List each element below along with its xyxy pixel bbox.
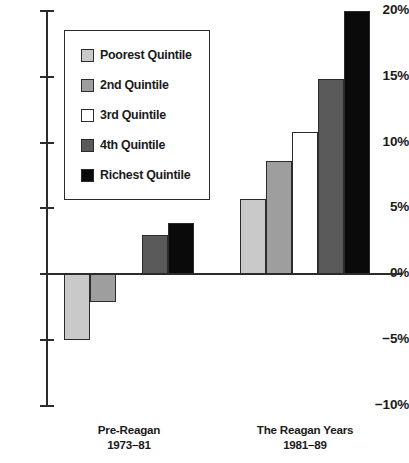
- x-axis-group-label: The Reagan Years1981–89: [235, 422, 375, 452]
- bar: [168, 223, 194, 274]
- bar: [344, 11, 370, 274]
- bar: [266, 161, 292, 274]
- legend-swatch-icon: [81, 49, 94, 62]
- legend-item-label: Poorest Quintile: [100, 48, 192, 62]
- bar: [292, 132, 318, 274]
- legend-item-label: 4th Quintile: [100, 138, 165, 152]
- legend-swatch-icon: [81, 79, 94, 92]
- legend-item: Poorest Quintile: [65, 40, 209, 70]
- bar-chart: 20%15%10%5%0%−5%−10% Poorest Quintile2nd…: [0, 0, 409, 463]
- legend-item: 4th Quintile: [65, 130, 209, 160]
- legend-swatch-icon: [81, 109, 94, 122]
- legend-item: Richest Quintile: [65, 160, 209, 190]
- legend-item-label: 2nd Quintile: [100, 78, 169, 92]
- bar: [64, 274, 90, 340]
- bar: [142, 235, 168, 274]
- group-label-line1: Pre-Reagan: [98, 423, 160, 436]
- legend-item: 2nd Quintile: [65, 70, 209, 100]
- legend-item-label: 3rd Quintile: [100, 108, 166, 122]
- legend-item: 3rd Quintile: [65, 100, 209, 130]
- bar: [240, 199, 266, 274]
- x-axis-group-label: Pre-Reagan1973–81: [59, 422, 199, 452]
- legend-item-label: Richest Quintile: [100, 168, 190, 182]
- group-label-line2: 1981–89: [235, 437, 375, 452]
- group-label-line1: The Reagan Years: [257, 423, 353, 436]
- legend-swatch-icon: [81, 169, 94, 182]
- legend-swatch-icon: [81, 139, 94, 152]
- bar: [90, 274, 116, 302]
- chart-legend: Poorest Quintile2nd Quintile3rd Quintile…: [64, 30, 210, 200]
- bar: [318, 79, 344, 274]
- group-label-line2: 1973–81: [59, 437, 199, 452]
